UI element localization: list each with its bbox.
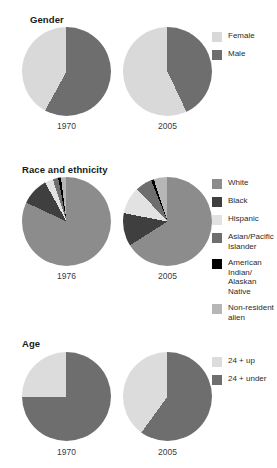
legend-race-and-ethnicity: WhiteBlackHispanicAsian/Pacific Islander…	[212, 178, 274, 329]
legend-item-label: Hispanic	[228, 214, 259, 224]
year-label-race-1976: 1976	[22, 271, 111, 281]
section-title-race-and-ethnicity: Race and ethnicity	[22, 164, 108, 175]
legend-item: Asian/Pacific Islander	[212, 232, 274, 251]
legend-swatch-icon	[212, 304, 222, 314]
legend-gender: FemaleMale	[212, 31, 255, 67]
legend-age: 24 + up24 + under	[212, 356, 266, 392]
legend-swatch-icon	[212, 375, 222, 385]
legend-swatch-icon	[212, 215, 222, 225]
section-title-age: Age	[22, 338, 40, 349]
legend-item: Black	[212, 196, 274, 207]
legend-swatch-icon	[212, 50, 222, 60]
section-title-gender: Gender	[30, 14, 64, 25]
legend-item-label: 24 + under	[228, 374, 266, 384]
legend-item-label: Female	[228, 31, 255, 41]
legend-item-label: White	[228, 178, 248, 188]
legend-swatch-icon	[212, 32, 222, 42]
legend-item-label: American Indian/ Alaskan Native	[228, 258, 262, 296]
year-label-gender-1970: 1970	[22, 121, 111, 131]
pie-chart-age-1970	[22, 352, 111, 441]
infographic-page: Gender 1970 2005 FemaleMale Race and eth…	[0, 0, 277, 468]
pie-chart-gender-2005	[123, 27, 212, 116]
legend-swatch-icon	[212, 357, 222, 367]
legend-item: 24 + up	[212, 356, 266, 367]
legend-item-label: Asian/Pacific Islander	[228, 232, 274, 251]
pie-chart-gender-1970	[22, 27, 111, 116]
legend-swatch-icon	[212, 197, 222, 207]
legend-item-label: Black	[228, 196, 248, 206]
legend-item: Male	[212, 49, 255, 60]
pie-chart-age-2005	[123, 352, 212, 441]
legend-item: 24 + under	[212, 374, 266, 385]
legend-item: Hispanic	[212, 214, 274, 225]
pie-chart-race-1976	[22, 177, 111, 266]
legend-item-label: Male	[228, 49, 245, 59]
legend-item-label: 24 + up	[228, 356, 255, 366]
legend-swatch-icon	[212, 179, 222, 189]
legend-item-label: Non-resident alien	[228, 303, 274, 322]
year-label-gender-2005: 2005	[123, 121, 212, 131]
year-label-age-2005: 2005	[123, 447, 212, 457]
legend-item: Non-resident alien	[212, 303, 274, 322]
legend-item: Female	[212, 31, 255, 42]
year-label-race-2005: 2005	[123, 271, 212, 281]
legend-item: American Indian/ Alaskan Native	[212, 258, 274, 296]
legend-swatch-icon	[212, 233, 222, 243]
pie-chart-race-2005	[123, 177, 212, 266]
legend-swatch-icon	[212, 259, 222, 269]
legend-item: White	[212, 178, 274, 189]
year-label-age-1970: 1970	[22, 447, 111, 457]
